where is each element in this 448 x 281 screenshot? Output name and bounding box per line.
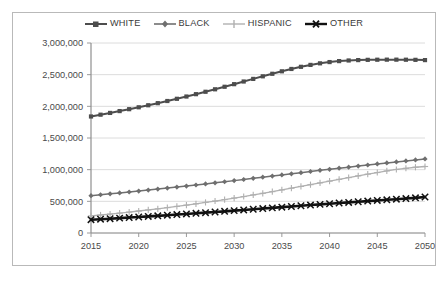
chart-canvas: 3,000,0002,500,0002,000,0001,500,0001,00… bbox=[13, 13, 437, 267]
chart-series-white bbox=[89, 58, 427, 119]
x-tick-label: 2050 bbox=[415, 241, 435, 251]
y-tick-label: 0 bbox=[78, 228, 83, 238]
chart-gridlines bbox=[91, 43, 425, 233]
x-tick-label: 2035 bbox=[272, 241, 292, 251]
y-tick-label: 500,000 bbox=[50, 197, 83, 207]
y-tick-label: 2,500,000 bbox=[42, 70, 83, 80]
chart-plot-area: 3,000,0002,500,0002,000,0001,500,0001,00… bbox=[13, 13, 437, 267]
chart-figure: WHITE BLACK HISPANIC OTHER bbox=[12, 12, 436, 266]
chart-series-black bbox=[88, 156, 427, 198]
y-tick-label: 3,000,000 bbox=[42, 38, 83, 48]
y-tick-label: 2,000,000 bbox=[42, 102, 83, 112]
chart-x-tick-labels: 20152020202520302035204020452050 bbox=[81, 241, 435, 251]
x-tick-label: 2015 bbox=[81, 241, 101, 251]
y-tick-label: 1,000,000 bbox=[42, 165, 83, 175]
chart-y-tick-labels: 3,000,0002,500,0002,000,0001,500,0001,00… bbox=[42, 38, 83, 238]
y-tick-label: 1,500,000 bbox=[42, 133, 83, 143]
x-tick-label: 2020 bbox=[128, 241, 148, 251]
chart-series-layer bbox=[88, 58, 428, 223]
x-tick-label: 2025 bbox=[176, 241, 196, 251]
x-tick-label: 2045 bbox=[367, 241, 387, 251]
x-tick-label: 2030 bbox=[224, 241, 244, 251]
x-tick-label: 2040 bbox=[319, 241, 339, 251]
